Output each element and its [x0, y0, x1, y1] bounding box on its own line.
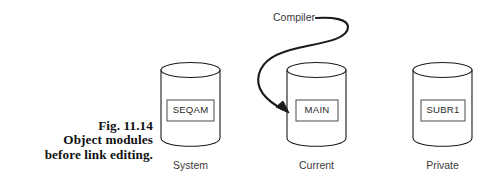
cylinder-caption-current: Current	[276, 159, 357, 171]
cylinder-top-ellipse-system	[161, 63, 220, 78]
compiler-arrow-label: Compiler	[273, 11, 315, 23]
cylinder-top-ellipse-private	[413, 63, 472, 78]
figure-caption: Fig. 11.14 Object modules before link ed…	[0, 119, 153, 162]
cylinder-top-ellipse-current	[287, 63, 346, 78]
module-label-subr1: SUBR1	[421, 104, 465, 115]
figure-caption-line-1: Fig. 11.14	[0, 119, 153, 133]
cylinder-caption-private: Private	[402, 159, 483, 171]
figure-caption-line-3: before link editing.	[0, 148, 153, 162]
figure-caption-line-2: Object modules	[0, 133, 153, 147]
cylinder-caption-system: System	[150, 159, 231, 171]
module-label-seqam: SEQAM	[167, 104, 214, 115]
module-label-main: MAIN	[296, 104, 338, 115]
figure-container: Compiler SEQAM MAIN SUBR1 System Current…	[0, 0, 483, 179]
